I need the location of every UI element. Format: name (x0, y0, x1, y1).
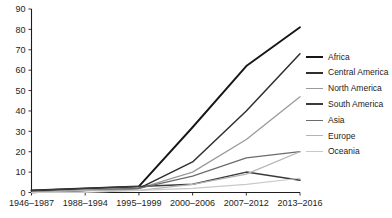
legend-label: Oceania (328, 147, 360, 156)
y-tick-label: 90 (15, 4, 25, 14)
series-line-africa (32, 27, 301, 190)
legend-item-north-america[interactable]: North America (306, 81, 392, 97)
legend-label: Europe (328, 132, 355, 141)
line-chart: 0102030405060708090 1946–19871988–199419… (0, 0, 392, 218)
legend-item-asia[interactable]: Asia (306, 112, 392, 128)
legend-item-africa[interactable]: Africa (306, 49, 392, 65)
legend-swatch-line-icon (306, 120, 323, 121)
x-tick-labels: 1946–19871988–19941995–19992000–20062007… (9, 193, 323, 208)
chart-legend: AfricaCentral AmericaNorth AmericaSouth … (306, 49, 392, 160)
x-tick-label: 1995–1999 (116, 198, 161, 208)
legend-label: North America (328, 84, 382, 93)
y-tick-label: 30 (15, 127, 25, 137)
legend-swatch-line-icon (306, 135, 323, 136)
legend-label: South America (328, 100, 383, 109)
y-tick-label: 20 (15, 147, 25, 157)
y-tick-label: 60 (15, 65, 25, 75)
legend-item-europe[interactable]: Europe (306, 128, 392, 144)
y-tick-label: 80 (15, 25, 25, 35)
legend-label: Asia (328, 116, 345, 125)
x-axis-group: 1946–19871988–19941995–19992000–20062007… (9, 193, 323, 208)
y-axis-group: 0102030405060708090 (15, 4, 31, 198)
legend-swatch-line-icon (306, 103, 323, 105)
legend-item-central-america[interactable]: Central America (306, 65, 392, 81)
series-line-central-america (32, 54, 301, 193)
legend-label: Africa (328, 53, 350, 62)
legend-label: Central America (328, 68, 388, 77)
legend-item-oceania[interactable]: Oceania (306, 144, 392, 160)
y-tick-label: 70 (15, 45, 25, 55)
legend-swatch-line-icon (306, 72, 323, 74)
x-tick-label: 2000–2006 (170, 198, 215, 208)
y-tick-label: 40 (15, 106, 25, 116)
legend-swatch-line-icon (306, 151, 323, 152)
y-tick-labels: 0102030405060708090 (15, 4, 31, 198)
x-tick-label: 1988–1994 (63, 198, 108, 208)
legend-swatch-line-icon (306, 88, 323, 89)
data-series-group (32, 27, 301, 192)
legend-item-south-america[interactable]: South America (306, 96, 392, 112)
y-tick-label: 0 (20, 188, 25, 198)
legend-swatch-line-icon (306, 56, 323, 58)
series-line-north-america (32, 97, 301, 193)
y-tick-label: 50 (15, 86, 25, 96)
y-tick-label: 10 (15, 167, 25, 177)
x-tick-label: 2007–2012 (224, 198, 269, 208)
x-tick-label: 1946–1987 (9, 198, 54, 208)
x-tick-label: 2013–2016 (277, 198, 322, 208)
